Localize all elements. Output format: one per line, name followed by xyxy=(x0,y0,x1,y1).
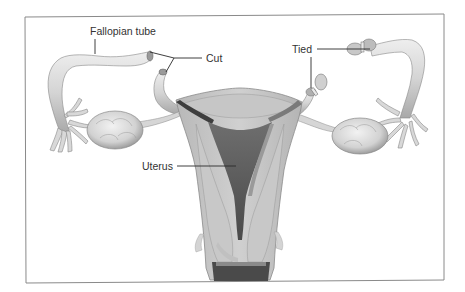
left-ovary xyxy=(87,111,143,149)
label-uterus-text: Uterus xyxy=(142,160,173,172)
label-cut-text: Cut xyxy=(206,52,222,64)
label-tied-text: Tied xyxy=(292,43,312,55)
tubal-ligation-diagram: Fallopian tube Cut Tied Uterus xyxy=(0,0,465,292)
right-ovary xyxy=(332,118,388,154)
label-fallopian-tube-text: Fallopian tube xyxy=(90,25,156,37)
left-cut-end-medial xyxy=(159,69,167,75)
